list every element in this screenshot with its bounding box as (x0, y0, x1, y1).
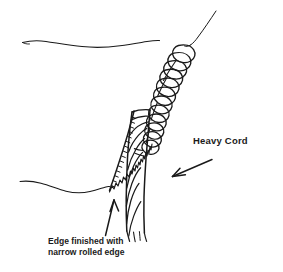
thread-tail (185, 11, 217, 46)
heavy-cord-arrow (173, 160, 213, 177)
rolled-edge-caption: Edge finished with narrow rolled edge (48, 236, 125, 258)
lower-fabric-edge (20, 181, 110, 193)
diagram-canvas: Heavy Cord Edge finished with narrow rol… (0, 0, 283, 272)
caption-line-1: Edge finished with (48, 236, 125, 247)
caption-line-2: narrow rolled edge (48, 247, 125, 258)
heavy-cord-label: Heavy Cord (193, 135, 248, 146)
upper-fabric-edge (23, 41, 160, 48)
whipped-loop-stitches (142, 45, 195, 154)
rolled-edge-arrow (106, 200, 119, 236)
